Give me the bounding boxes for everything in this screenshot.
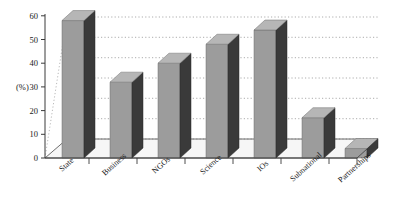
chart-background: [0, 0, 395, 213]
bar-science[interactable]: [206, 34, 239, 158]
y-tick-label-10: 10: [30, 129, 39, 139]
y-tick-label-0: 0: [34, 153, 38, 163]
y-axis-label: (%): [16, 82, 29, 92]
y-tick-label-50: 50: [30, 35, 39, 45]
bar-business[interactable]: [110, 72, 143, 158]
bar-ios[interactable]: [254, 20, 287, 158]
bar-state[interactable]: [62, 11, 95, 158]
bar-chart-figure: 0 10 20 30 40 50 60 (%): [0, 0, 395, 213]
chart-canvas: 0 10 20 30 40 50 60 (%): [0, 0, 395, 213]
y-tick-label-40: 40: [30, 58, 39, 68]
y-tick-label-20: 20: [30, 106, 39, 116]
bar-subnational[interactable]: [302, 108, 335, 158]
bar-ngos[interactable]: [158, 53, 191, 158]
y-tick-label-60: 60: [30, 11, 39, 21]
y-tick-label-30: 30: [30, 82, 39, 92]
